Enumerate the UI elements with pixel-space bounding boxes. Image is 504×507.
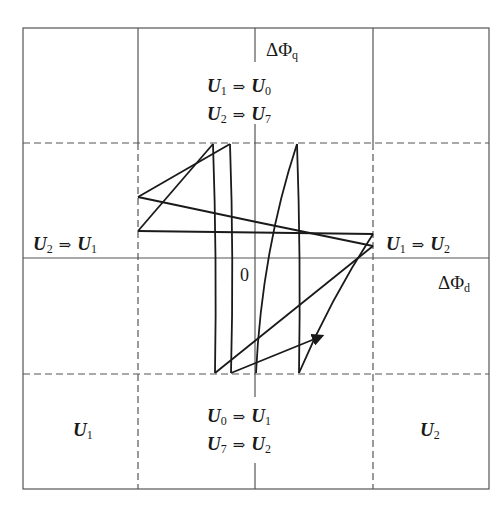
- transition-label: U2⇒U7: [207, 104, 271, 125]
- trajectory-segment: [231, 336, 322, 373]
- trajectory-segment: [138, 144, 230, 197]
- vector-label: U2: [420, 420, 440, 441]
- d-axis-label: ΔΦd: [438, 273, 470, 294]
- origin-label: 0: [240, 266, 249, 284]
- vector-label: U1: [73, 420, 93, 441]
- q-axis-label: ΔΦq: [266, 40, 298, 61]
- transition-label: U1⇒U2: [386, 234, 450, 255]
- trajectory-segment: [215, 246, 373, 373]
- trajectory-segment: [138, 144, 213, 231]
- transition-label: U1⇒U0: [207, 76, 271, 97]
- transition-label: U0⇒U1: [207, 406, 271, 427]
- transition-label: U2⇒U1: [33, 234, 97, 255]
- transition-label: U7⇒U2: [207, 434, 271, 455]
